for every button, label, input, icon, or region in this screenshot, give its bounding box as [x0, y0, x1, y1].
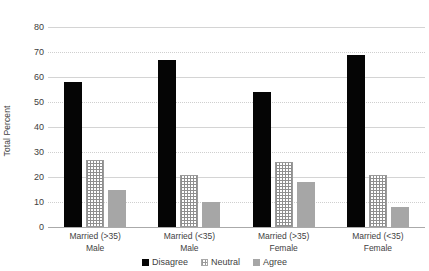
legend-item-agree[interactable]: Agree — [253, 257, 287, 267]
x-label-line2: Male — [142, 242, 236, 254]
y-axis-tick-label: 60 — [2, 72, 44, 82]
x-label-line2: Female — [331, 242, 425, 254]
bar-agree[interactable] — [202, 202, 220, 227]
x-label-line2: Female — [237, 242, 331, 254]
x-label-line1: Married (<35) — [164, 231, 215, 241]
bar-disagree[interactable] — [347, 55, 365, 228]
bar-agree[interactable] — [108, 190, 126, 228]
bar-neutral[interactable] — [369, 175, 387, 228]
legend-swatch-agree — [253, 259, 260, 266]
legend-label: Agree — [263, 257, 287, 267]
bar-group — [142, 27, 236, 227]
bar-group — [237, 27, 331, 227]
y-axis-tick-label: 0 — [2, 222, 44, 232]
x-axis-category-label: Married (>35)Female — [237, 230, 331, 254]
bar-neutral[interactable] — [86, 160, 104, 228]
legend-item-neutral[interactable]: Neutral — [201, 257, 240, 267]
y-axis-tick-labels: 01020304050607080 — [0, 27, 44, 227]
x-axis-category-label: Married (>35)Male — [48, 230, 142, 254]
bar-neutral[interactable] — [180, 175, 198, 228]
x-axis-category-label: Married (<35)Male — [142, 230, 236, 254]
y-axis-tick-label: 40 — [2, 122, 44, 132]
x-label-line2: Male — [48, 242, 142, 254]
legend-item-disagree[interactable]: Disagree — [142, 257, 188, 267]
y-axis-tick-label: 20 — [2, 172, 44, 182]
bar-neutral[interactable] — [275, 162, 293, 227]
bar-agree[interactable] — [391, 207, 409, 227]
x-label-line1: Married (>35) — [258, 231, 309, 241]
y-axis-tick-label: 70 — [2, 47, 44, 57]
plot-area — [48, 27, 425, 227]
y-axis-tick-label: 80 — [2, 22, 44, 32]
bar-disagree[interactable] — [64, 82, 82, 227]
bar-chart: Total Percent 01020304050607080 Married … — [0, 0, 429, 271]
x-axis-category-label: Married (<35)Female — [331, 230, 425, 254]
legend-swatch-neutral — [201, 259, 208, 266]
chart-legend: DisagreeNeutralAgree — [0, 257, 429, 267]
legend-swatch-disagree — [142, 259, 149, 266]
bar-disagree[interactable] — [158, 60, 176, 228]
y-axis-tick-label: 50 — [2, 97, 44, 107]
bar-agree[interactable] — [297, 182, 315, 227]
y-axis-tick-label: 10 — [2, 197, 44, 207]
bar-disagree[interactable] — [253, 92, 271, 227]
x-axis-category-labels: Married (>35)MaleMarried (<35)MaleMarrie… — [48, 230, 425, 256]
x-label-line1: Married (<35) — [352, 231, 403, 241]
bar-group — [331, 27, 425, 227]
legend-label: Disagree — [152, 257, 188, 267]
x-axis-line — [48, 227, 425, 228]
bars-layer — [48, 27, 425, 227]
y-axis-tick-label: 30 — [2, 147, 44, 157]
x-label-line1: Married (>35) — [69, 231, 120, 241]
legend-label: Neutral — [211, 257, 240, 267]
bar-group — [48, 27, 142, 227]
